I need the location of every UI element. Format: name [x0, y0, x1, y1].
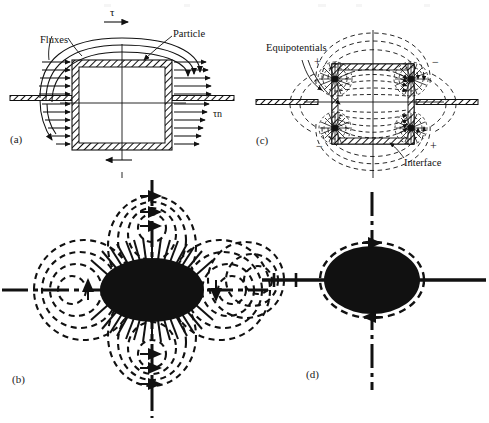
panel-c: Equipotentials Interface + − − + (c) — [244, 0, 489, 180]
panel-a-label: (a) — [10, 133, 22, 145]
panel-c-label: (c) — [256, 134, 268, 146]
particle-label: Particle — [173, 28, 205, 39]
panel-d: (d) — [262, 188, 489, 423]
tau-n-label: τn — [213, 108, 222, 119]
panel-b-drawing — [0, 178, 270, 423]
panel-b-label: (b) — [12, 373, 25, 385]
panel-d-drawing — [262, 188, 489, 423]
sign-top-left: + — [314, 56, 321, 68]
sign-top-right: − — [432, 56, 439, 68]
panel-c-drawing — [244, 0, 489, 180]
tau-top-label: τ — [110, 6, 114, 18]
panel-a: Fluxes Particle τ τn (a) — [0, 0, 244, 180]
interface-label: Interface — [404, 157, 441, 168]
equipotentials-label: Equipotentials — [266, 42, 327, 53]
panel-b: (b) — [0, 178, 270, 423]
sign-bottom-right: + — [430, 140, 437, 152]
panel-a-drawing — [0, 0, 244, 180]
panel-d-label: (d) — [306, 368, 319, 380]
sign-bottom-left: − — [316, 140, 323, 152]
figure-canvas: Fluxes Particle τ τn (a) — [0, 0, 489, 423]
fluxes-label: Fluxes — [40, 34, 68, 45]
